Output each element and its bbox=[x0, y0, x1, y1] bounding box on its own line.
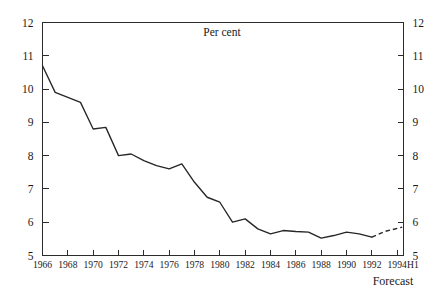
chart-container: Per cent 12111098765 12111098765 1966196… bbox=[0, 0, 442, 301]
x-axis-suffix-label: H1 bbox=[407, 259, 419, 270]
x-tick-label: 1980 bbox=[210, 259, 229, 270]
y-tick-label-left: 11 bbox=[22, 50, 33, 62]
x-tick-label: 1990 bbox=[337, 259, 356, 270]
y-tick-label-right: 7 bbox=[413, 183, 419, 195]
x-tick-label: 1976 bbox=[160, 259, 179, 270]
line-chart-figure: Per cent 12111098765 12111098765 1966196… bbox=[0, 0, 442, 301]
x-tick-label: 1972 bbox=[109, 259, 128, 270]
x-tick-label: 1986 bbox=[286, 259, 305, 270]
y-tick-label-left: 6 bbox=[28, 216, 34, 228]
y-tick-label-right: 6 bbox=[413, 216, 419, 228]
x-tick-label: 1994 bbox=[388, 259, 407, 270]
y-tick-label-right: 10 bbox=[413, 83, 425, 95]
forecast-annotation: Forecast bbox=[373, 274, 414, 288]
chart-title: Per cent bbox=[203, 26, 241, 38]
y-tick-label-left: 7 bbox=[28, 183, 34, 195]
x-tick-label: 1970 bbox=[84, 259, 103, 270]
y-tick-label-left: 10 bbox=[22, 83, 34, 95]
y-tick-label-right: 11 bbox=[413, 50, 424, 62]
y-tick-label-left: 12 bbox=[22, 17, 34, 29]
x-tick-label: 1974 bbox=[134, 259, 153, 270]
x-tick-label: 1966 bbox=[33, 259, 52, 270]
x-tick-label: 1978 bbox=[185, 259, 204, 270]
x-tick-label: 1992 bbox=[362, 259, 381, 270]
y-tick-label-left: 9 bbox=[28, 116, 34, 128]
x-tick-label: 1982 bbox=[236, 259, 255, 270]
y-tick-label-right: 9 bbox=[413, 116, 419, 128]
x-tick-label: 1984 bbox=[261, 259, 280, 270]
x-tick-label: 1988 bbox=[312, 259, 331, 270]
y-tick-label-right: 12 bbox=[413, 17, 425, 29]
x-tick-label: 1968 bbox=[58, 259, 77, 270]
y-tick-label-right: 8 bbox=[413, 150, 419, 162]
y-tick-label-left: 8 bbox=[28, 150, 34, 162]
